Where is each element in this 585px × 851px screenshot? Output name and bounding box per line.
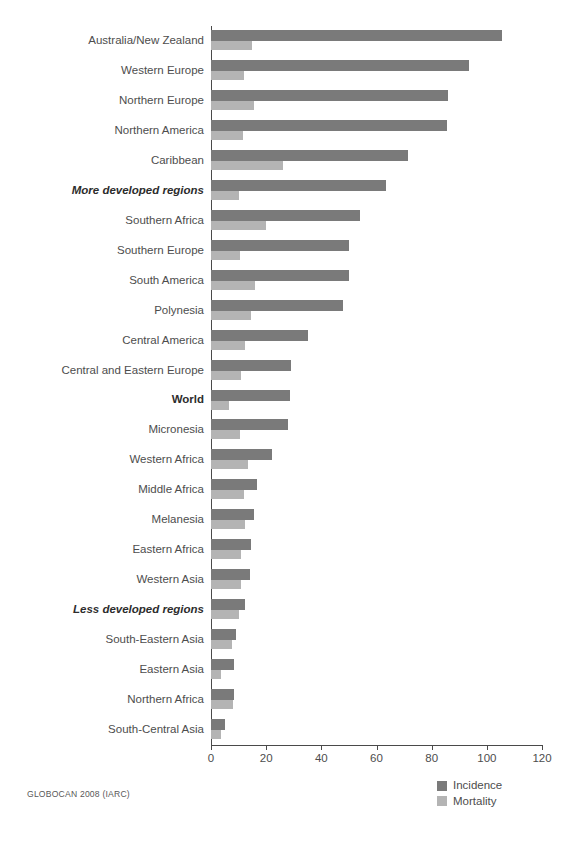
x-tick-mark: [321, 745, 322, 750]
incidence-bar: [211, 599, 245, 610]
x-tick-label: 120: [532, 752, 551, 764]
bar-row: Less developed regions: [211, 595, 542, 625]
bar-row: Northern Africa: [211, 685, 542, 715]
legend-item-mortality: Mortality: [437, 796, 502, 808]
mortality-bar: [211, 580, 241, 589]
legend-item-incidence: Incidence: [437, 780, 502, 792]
category-label: Polynesia: [154, 305, 204, 317]
category-label: Northern America: [115, 125, 204, 137]
incidence-bar: [211, 360, 291, 371]
mortality-bar: [211, 101, 254, 110]
bar-row: Western Africa: [211, 445, 542, 475]
mortality-bar: [211, 670, 221, 679]
legend-label-mortality: Mortality: [453, 796, 496, 808]
x-tick-label: 20: [260, 752, 273, 764]
category-label: Central America: [122, 335, 204, 347]
bar-row: Northern America: [211, 116, 542, 146]
bar-row: Melanesia: [211, 505, 542, 535]
incidence-bar: [211, 509, 254, 520]
bar-row: Micronesia: [211, 415, 542, 445]
bar-row: South-Central Asia: [211, 715, 542, 745]
mortality-bar: [211, 610, 239, 619]
incidence-bar: [211, 210, 360, 221]
mortality-bar: [211, 41, 252, 50]
category-label: South-Central Asia: [108, 724, 204, 736]
incidence-bar: [211, 240, 349, 251]
incidence-bar: [211, 180, 386, 191]
mortality-bar: [211, 311, 251, 320]
bar-row: World: [211, 386, 542, 416]
incidence-bar: [211, 419, 288, 430]
x-tick-label: 0: [208, 752, 214, 764]
bar-row: Middle Africa: [211, 475, 542, 505]
category-label: Caribbean: [151, 155, 204, 167]
category-label: Western Asia: [136, 574, 204, 586]
category-label: Eastern Africa: [132, 545, 204, 557]
source-note: GLOBOCAN 2008 (IARC): [27, 789, 130, 799]
bar-row: Central America: [211, 326, 542, 356]
mortality-bar: [211, 251, 240, 260]
category-label: Western Europe: [121, 65, 204, 77]
mortality-swatch-icon: [437, 796, 447, 806]
globocan-bar-chart: Australia/New ZealandWestern EuropeNorth…: [0, 0, 585, 851]
x-tick-label: 60: [370, 752, 383, 764]
mortality-bar: [211, 730, 221, 739]
bar-rows: Australia/New ZealandWestern EuropeNorth…: [211, 26, 542, 745]
bar-row: Central and Eastern Europe: [211, 356, 542, 386]
incidence-bar: [211, 539, 251, 550]
bar-row: More developed regions: [211, 176, 542, 206]
category-label: South America: [129, 275, 204, 287]
bar-row: Southern Africa: [211, 206, 542, 236]
mortality-bar: [211, 520, 245, 529]
category-label: Southern Europe: [117, 245, 204, 257]
bar-row: Eastern Africa: [211, 535, 542, 565]
x-tick-label: 40: [315, 752, 328, 764]
mortality-bar: [211, 490, 244, 499]
mortality-bar: [211, 161, 283, 170]
incidence-bar: [211, 150, 408, 161]
x-tick-mark: [487, 745, 488, 750]
bar-row: Southern Europe: [211, 236, 542, 266]
mortality-bar: [211, 700, 233, 709]
incidence-bar: [211, 30, 502, 41]
mortality-bar: [211, 191, 239, 200]
mortality-bar: [211, 401, 229, 410]
category-label: More developed regions: [72, 185, 204, 197]
incidence-bar: [211, 300, 343, 311]
x-tick-mark: [432, 745, 433, 750]
category-label: Western Africa: [129, 455, 204, 467]
category-label: Central and Eastern Europe: [61, 365, 204, 377]
plot-area: Australia/New ZealandWestern EuropeNorth…: [211, 26, 542, 745]
mortality-bar: [211, 131, 243, 140]
mortality-bar: [211, 281, 255, 290]
category-label: Northern Europe: [119, 95, 204, 107]
category-label: Less developed regions: [73, 604, 204, 616]
mortality-bar: [211, 460, 248, 469]
bar-row: Western Europe: [211, 56, 542, 86]
category-label: Australia/New Zealand: [88, 35, 204, 47]
x-tick-mark: [542, 745, 543, 750]
category-label: Southern Africa: [125, 215, 204, 227]
incidence-bar: [211, 270, 349, 281]
bar-row: Eastern Asia: [211, 655, 542, 685]
bar-row: Western Asia: [211, 565, 542, 595]
category-label: Northern Africa: [127, 694, 204, 706]
incidence-swatch-icon: [437, 781, 447, 791]
incidence-bar: [211, 60, 469, 71]
legend-label-incidence: Incidence: [453, 780, 502, 792]
bar-row: Polynesia: [211, 296, 542, 326]
x-tick-mark: [266, 745, 267, 750]
x-tick-label: 80: [425, 752, 438, 764]
bar-row: Australia/New Zealand: [211, 26, 542, 56]
chart-legend: Incidence Mortality: [437, 780, 502, 811]
category-label: Micronesia: [148, 425, 204, 437]
x-tick-mark: [377, 745, 378, 750]
x-tick-label: 100: [477, 752, 496, 764]
incidence-bar: [211, 449, 272, 460]
mortality-bar: [211, 640, 232, 649]
mortality-bar: [211, 550, 241, 559]
category-label: Melanesia: [152, 515, 204, 527]
mortality-bar: [211, 430, 240, 439]
category-label: Eastern Asia: [139, 664, 204, 676]
incidence-bar: [211, 90, 448, 101]
